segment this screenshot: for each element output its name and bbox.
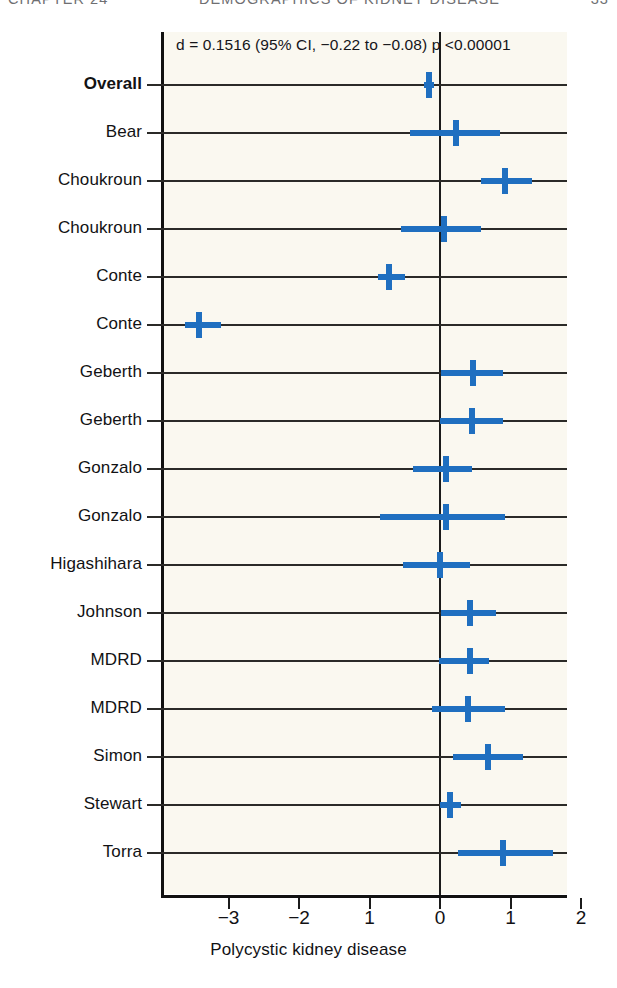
row-rule — [147, 84, 567, 86]
zero-reference-line — [439, 32, 441, 895]
point-estimate-marker — [467, 600, 473, 626]
study-label: Choukroun — [58, 170, 142, 190]
forest-plot-figure: d = 0.1516 (95% CI, −0.22 to −0.08) p <0… — [0, 0, 617, 988]
study-label: Gonzalo — [78, 458, 142, 478]
row-rule — [147, 372, 567, 374]
study-label: Choukroun — [58, 218, 142, 238]
study-label: Simon — [93, 746, 142, 766]
row-rule — [147, 612, 567, 614]
point-estimate-marker — [386, 264, 392, 290]
point-estimate-marker — [469, 408, 475, 434]
study-label: Gonzalo — [78, 506, 142, 526]
x-axis-tick-label: 2 — [551, 907, 611, 929]
study-label: Torra — [103, 842, 142, 862]
overall-statistic-label: d = 0.1516 (95% CI, −0.22 to −0.08) p <0… — [176, 36, 511, 54]
point-estimate-marker — [443, 504, 449, 530]
x-axis-tick-label: −2 — [269, 907, 329, 929]
row-rule — [147, 276, 567, 278]
study-label: Conte — [96, 314, 142, 334]
study-label: Overall — [84, 74, 142, 94]
confidence-interval-bar — [185, 322, 222, 328]
plot-panel — [163, 32, 567, 894]
point-estimate-marker — [426, 72, 432, 98]
row-rule — [147, 564, 567, 566]
point-estimate-marker — [502, 168, 508, 194]
study-label: MDRD — [91, 698, 142, 718]
study-label: Conte — [96, 266, 142, 286]
x-axis-line — [161, 895, 567, 898]
x-axis-title: Polycystic kidney disease — [0, 940, 617, 960]
y-axis-line — [161, 32, 164, 898]
point-estimate-marker — [447, 792, 453, 818]
confidence-interval-bar — [439, 658, 490, 664]
point-estimate-marker — [467, 648, 473, 674]
row-rule — [147, 228, 567, 230]
study-label: Stewart — [84, 794, 142, 814]
study-label: Johnson — [77, 602, 142, 622]
study-label: Bear — [106, 122, 142, 142]
point-estimate-marker — [196, 312, 202, 338]
study-label: Higashihara — [50, 554, 142, 574]
study-label: Geberth — [80, 362, 142, 382]
point-estimate-marker — [465, 696, 471, 722]
study-label: Geberth — [80, 410, 142, 430]
x-axis-tick-label: 0 — [410, 907, 470, 929]
point-estimate-marker — [441, 216, 447, 242]
point-estimate-marker — [485, 744, 491, 770]
point-estimate-marker — [500, 840, 506, 866]
row-rule — [147, 420, 567, 422]
row-rule — [147, 132, 567, 134]
row-rule — [147, 660, 567, 662]
study-label: MDRD — [91, 650, 142, 670]
point-estimate-marker — [453, 120, 459, 146]
row-rule — [147, 468, 567, 470]
point-estimate-marker — [437, 552, 443, 578]
point-estimate-marker — [470, 360, 476, 386]
row-rule — [147, 804, 567, 806]
x-axis-tick-label: −3 — [199, 907, 259, 929]
x-axis-tick-label: 1 — [481, 907, 541, 929]
point-estimate-marker — [443, 456, 449, 482]
x-axis-tick-label: 1 — [340, 907, 400, 929]
